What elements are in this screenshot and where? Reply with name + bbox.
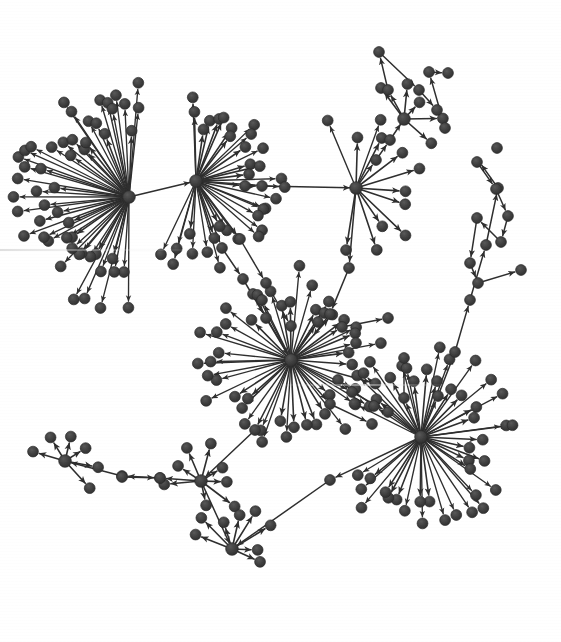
graph-node <box>275 416 286 427</box>
graph-node <box>109 266 120 277</box>
graph-node <box>28 446 39 457</box>
graph-node <box>46 142 57 153</box>
graph-node <box>67 134 78 145</box>
graph-node <box>490 485 501 496</box>
graph-node <box>202 370 213 381</box>
graph-node <box>201 395 212 406</box>
graph-node <box>187 248 198 259</box>
graph-node <box>190 529 201 540</box>
graph-node <box>95 303 106 314</box>
graph-node <box>217 243 228 254</box>
graph-node <box>470 355 481 366</box>
graph-node <box>257 295 268 306</box>
graph-node <box>91 118 102 129</box>
graph-node <box>325 309 336 320</box>
graph-node <box>49 182 60 193</box>
graph-node <box>472 157 483 168</box>
graph-node <box>440 123 451 134</box>
graph-node <box>240 142 251 153</box>
graph-node <box>45 432 56 443</box>
graph-node <box>417 518 428 529</box>
graph-node <box>250 506 261 517</box>
graph-node <box>189 106 200 117</box>
graph-node <box>63 217 74 228</box>
graph-node <box>446 384 457 395</box>
graph-node <box>365 356 376 367</box>
graph-node <box>375 338 386 349</box>
graph-node <box>250 425 261 436</box>
graph-node <box>471 490 482 501</box>
graph-node <box>117 472 128 483</box>
graph-node <box>39 232 50 243</box>
graph-node <box>184 228 195 239</box>
graph-node <box>19 231 30 242</box>
graph-node <box>432 105 443 116</box>
graph-node <box>415 496 426 507</box>
graph-node <box>218 112 229 123</box>
graph-node <box>352 132 363 143</box>
graph-node <box>119 267 130 278</box>
graph-node <box>80 443 91 454</box>
graph-node <box>31 186 42 197</box>
graph-node <box>257 181 268 192</box>
graph-node <box>424 67 435 78</box>
graph-node <box>99 128 110 139</box>
graph-node <box>182 443 193 454</box>
graph-node <box>414 85 425 96</box>
graph-node <box>196 512 207 523</box>
graph-node <box>370 378 381 389</box>
graph-node <box>340 424 351 435</box>
graph-node <box>261 313 272 324</box>
graph-node <box>119 98 130 109</box>
graph-edge <box>420 437 421 495</box>
graph-edge <box>201 481 229 543</box>
graph-node <box>218 517 229 528</box>
graph-node <box>244 169 255 180</box>
graph-node <box>465 464 476 475</box>
graph-node <box>507 420 518 431</box>
graph-edge <box>366 437 421 503</box>
graph-node <box>408 376 419 387</box>
graph-node <box>126 125 137 136</box>
graph-edge <box>486 194 497 245</box>
graph-node <box>195 327 206 338</box>
graph-node <box>322 115 333 126</box>
graph-node <box>68 294 79 305</box>
graph-node <box>66 106 77 117</box>
graph-node <box>371 245 382 256</box>
graph-node <box>311 419 322 430</box>
graph-edge <box>333 268 349 308</box>
graph-node <box>481 240 492 251</box>
graph-edge <box>262 186 349 188</box>
graph-node <box>456 390 467 401</box>
graph-node <box>347 387 358 398</box>
graph-node <box>289 422 300 433</box>
graph-node <box>451 510 462 521</box>
graph-node <box>374 47 385 58</box>
graph-node <box>254 161 265 172</box>
graph-node <box>253 231 264 242</box>
graph-node <box>65 150 76 161</box>
graph-edge <box>206 430 255 476</box>
graph-hub-node <box>398 113 411 126</box>
graph-node <box>12 173 23 184</box>
graph-node <box>55 261 66 272</box>
graph-node <box>347 359 358 370</box>
graph-edge <box>455 306 468 352</box>
graph-node <box>246 129 257 140</box>
graph-node <box>471 402 482 413</box>
graph-node <box>341 245 352 256</box>
graph-node <box>358 368 369 379</box>
graph-node <box>217 462 228 473</box>
graph-node <box>421 364 432 375</box>
graph-edge <box>356 171 413 188</box>
graph-node <box>19 161 30 172</box>
graph-node <box>325 475 336 486</box>
graph-node <box>205 438 216 449</box>
graph-node <box>402 79 413 90</box>
graph-node <box>240 181 251 192</box>
graph-node <box>397 147 408 158</box>
graph-node <box>253 210 264 221</box>
graph-node <box>385 372 396 383</box>
graph-node <box>93 462 104 473</box>
